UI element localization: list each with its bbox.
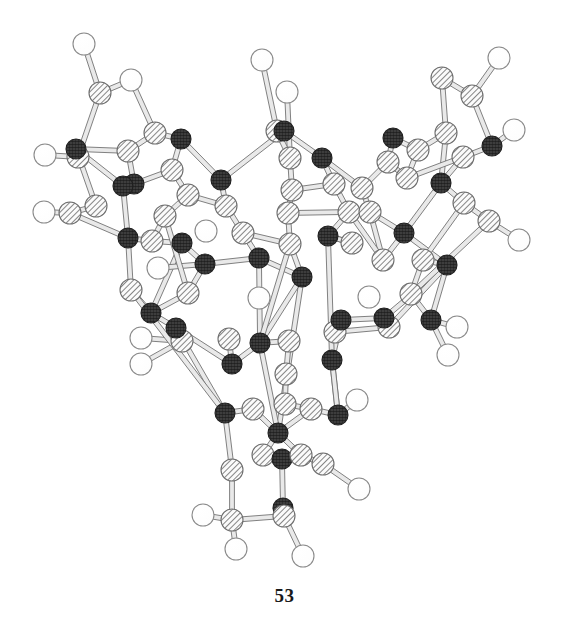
atom-hatch: [177, 184, 199, 206]
atom-hatch: [453, 192, 475, 214]
atom-hatch: [478, 210, 500, 232]
atom-dark: [482, 136, 502, 156]
atom-open: [437, 344, 459, 366]
atom-hatch: [351, 177, 373, 199]
atom-dark: [222, 354, 242, 374]
atom-hatch: [396, 167, 418, 189]
atom-hatch: [120, 279, 142, 301]
atom-open: [488, 47, 510, 69]
atom-dark: [195, 254, 215, 274]
molecular-structure-diagram: [0, 0, 569, 600]
atom-dark: [274, 121, 294, 141]
atom-dark: [331, 310, 351, 330]
atom-open: [446, 316, 468, 338]
atom-hatch: [232, 222, 254, 244]
atom-hatch: [161, 159, 183, 181]
atom-hatch: [341, 232, 363, 254]
atom-hatch: [141, 230, 163, 252]
atom-dark: [322, 350, 342, 370]
atom-open: [120, 69, 142, 91]
atom-dark: [141, 303, 161, 323]
atom-hatch: [274, 393, 296, 415]
atom-dark: [172, 233, 192, 253]
atom-dark: [328, 405, 348, 425]
atom-hatch: [290, 444, 312, 466]
atom-dark: [292, 267, 312, 287]
atom-hatch: [59, 202, 81, 224]
atom-open: [34, 144, 56, 166]
atom-dark: [431, 173, 451, 193]
atom-open: [195, 220, 217, 242]
atom-hatch: [279, 147, 301, 169]
atom-hatch: [218, 328, 240, 350]
atom-hatch: [323, 173, 345, 195]
atom-hatch: [279, 233, 301, 255]
atom-open: [225, 538, 247, 560]
atom-hatch: [144, 122, 166, 144]
atom-dark: [249, 248, 269, 268]
atom-dark: [421, 310, 441, 330]
atom-dark: [318, 226, 338, 246]
atom-open: [33, 201, 55, 223]
atom-open: [130, 353, 152, 375]
atom-hatch: [275, 363, 297, 385]
atom-dark: [268, 423, 288, 443]
atom-dark: [374, 308, 394, 328]
atom-hatch: [312, 453, 334, 475]
atom-dark: [211, 170, 231, 190]
figure-container: 53: [0, 0, 569, 635]
atom-dark: [66, 139, 86, 159]
atom-hatch: [431, 67, 453, 89]
atom-dark: [383, 128, 403, 148]
atom-hatch: [278, 330, 300, 352]
atom-dark: [118, 228, 138, 248]
atom-open: [503, 119, 525, 141]
atom-dark: [215, 403, 235, 423]
atom-open: [73, 33, 95, 55]
atom-dark: [166, 318, 186, 338]
atom-open: [358, 286, 380, 308]
atom-hatch: [273, 505, 295, 527]
atom-open: [508, 229, 530, 251]
atom-hatch: [372, 249, 394, 271]
atom-hatch: [154, 205, 176, 227]
atom-dark: [113, 176, 133, 196]
atom-dark: [312, 148, 332, 168]
atom-dark: [394, 223, 414, 243]
atom-hatch: [117, 140, 139, 162]
atom-hatch: [412, 249, 434, 271]
atom-dark: [250, 333, 270, 353]
atom-open: [348, 478, 370, 500]
atom-open: [192, 504, 214, 526]
atom-hatch: [300, 398, 322, 420]
atom-hatch: [89, 82, 111, 104]
bonds-layer: [44, 43, 520, 557]
atom-hatch: [281, 179, 303, 201]
atom-open: [346, 389, 368, 411]
atom-hatch: [221, 459, 243, 481]
atom-hatch: [277, 202, 299, 224]
atom-hatch: [435, 122, 457, 144]
atom-open: [248, 287, 270, 309]
atom-hatch: [338, 201, 360, 223]
atom-open: [251, 49, 273, 71]
atom-open: [276, 81, 298, 103]
atom-dark: [272, 449, 292, 469]
atom-hatch: [215, 195, 237, 217]
atom-hatch: [177, 282, 199, 304]
atom-hatch: [252, 444, 274, 466]
atom-open: [147, 257, 169, 279]
atom-open: [292, 545, 314, 567]
atom-hatch: [461, 85, 483, 107]
atom-dark: [437, 255, 457, 275]
atom-dark: [171, 129, 191, 149]
figure-caption: 53: [0, 586, 569, 605]
atom-hatch: [85, 195, 107, 217]
atom-hatch: [452, 146, 474, 168]
atom-hatch: [359, 201, 381, 223]
atom-hatch: [407, 139, 429, 161]
atom-open: [130, 327, 152, 349]
atom-hatch: [400, 283, 422, 305]
atom-hatch: [221, 509, 243, 531]
atom-hatch: [377, 151, 399, 173]
